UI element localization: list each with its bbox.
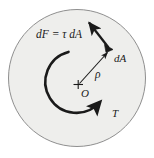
torque-label: T — [112, 107, 119, 119]
torsion-figure: dF = τ dA dA ρ O T — [0, 0, 154, 158]
area-element-label: dA — [114, 52, 127, 64]
force-label: dF = τ dA — [36, 28, 83, 40]
radius-label: ρ — [94, 68, 101, 81]
figure-canvas: dF = τ dA dA ρ O T — [0, 0, 154, 158]
center-label: O — [81, 87, 89, 99]
